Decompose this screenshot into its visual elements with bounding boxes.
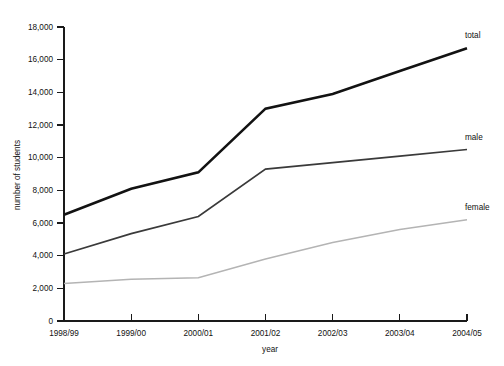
x-tick-label: 2004/05 [452,329,482,338]
x-tick-label: 1998/99 [49,329,79,338]
x-axis: 1998/991999/002000/012001/022002/032003/… [49,314,482,354]
y-tick-label: 10,000 [28,153,53,162]
series-label-group: totalmalefemale [465,31,490,212]
y-tick-marks [57,27,64,321]
chart-canvas: 02,0004,0006,0008,00010,00012,00014,0001… [0,0,504,366]
x-tick-label: 2000/01 [184,329,214,338]
x-tick-label: 2003/04 [385,329,415,338]
x-tick-marks [64,314,467,321]
y-tick-label: 14,000 [28,88,53,97]
y-tick-label: 0 [48,317,53,326]
y-tick-labels: 02,0004,0006,0008,00010,00012,00014,0001… [28,23,53,326]
series-label-female: female [465,203,490,212]
series-label-male: male [465,133,483,142]
x-tick-label: 2001/02 [251,329,281,338]
line-chart-figure: 02,0004,0006,0008,00010,00012,00014,0001… [0,0,504,366]
y-tick-label: 18,000 [28,23,53,32]
data-series-group [64,48,467,283]
series-line-female [64,220,467,284]
series-line-male [64,150,467,255]
y-tick-label: 6,000 [33,219,54,228]
y-tick-label: 8,000 [33,186,54,195]
x-tick-labels: 1998/991999/002000/012001/022002/032003/… [49,329,482,338]
y-tick-label: 2,000 [33,284,54,293]
cropped-figure-header [6,0,326,6]
y-tick-label: 4,000 [33,251,54,260]
x-axis-title: year [262,345,278,354]
series-label-total: total [465,31,481,40]
y-axis-title: number of students [13,140,22,210]
series-line-total [64,48,467,215]
y-tick-label: 16,000 [28,55,53,64]
y-axis: 02,0004,0006,0008,00010,00012,00014,0001… [13,23,64,326]
y-tick-label: 12,000 [28,121,53,130]
x-tick-label: 2002/03 [318,329,348,338]
x-tick-label: 1999/00 [116,329,146,338]
